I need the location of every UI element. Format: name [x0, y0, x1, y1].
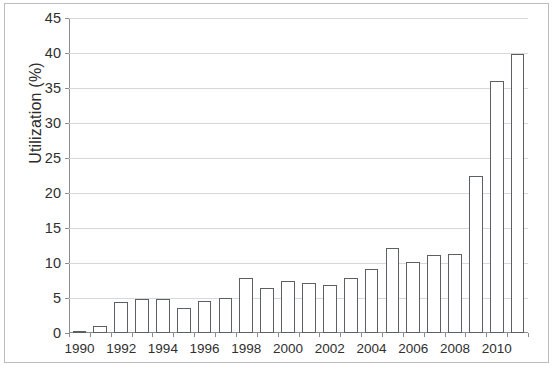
x-tick-label: 2008	[440, 341, 470, 356]
y-tick-label: 35	[45, 80, 61, 96]
gridline	[69, 18, 528, 19]
gridline	[69, 228, 528, 229]
x-tick-mark	[152, 333, 153, 337]
y-tick-mark	[65, 193, 69, 194]
x-tick-mark	[215, 333, 216, 337]
x-tick-mark	[340, 333, 341, 337]
bar-1998	[239, 278, 253, 333]
bar-2003	[344, 278, 358, 333]
y-tick-mark	[65, 53, 69, 54]
x-tick-label: 2002	[315, 341, 345, 356]
x-tick-mark	[194, 333, 195, 337]
bar-2000	[281, 281, 295, 334]
x-tick-label: 1992	[106, 341, 136, 356]
x-tick-label: 1996	[190, 341, 220, 356]
bar-1997	[219, 298, 233, 333]
bar-2001	[302, 283, 316, 333]
y-tick-mark	[65, 298, 69, 299]
x-tick-label: 2006	[398, 341, 428, 356]
gridline	[69, 53, 528, 54]
y-axis-title: Utilization (%)	[27, 33, 45, 193]
y-tick-mark	[65, 158, 69, 159]
x-tick-mark	[382, 333, 383, 337]
bar-2010	[490, 81, 504, 333]
y-tick-mark	[65, 123, 69, 124]
x-tick-mark	[465, 333, 466, 337]
y-tick-label: 45	[45, 10, 61, 26]
bar-2008	[448, 254, 462, 333]
y-tick-label: 40	[45, 45, 61, 61]
x-tick-label: 1990	[64, 341, 94, 356]
y-tick-label: 25	[45, 150, 61, 166]
bar-2011	[511, 54, 525, 333]
bar-2006	[406, 262, 420, 333]
x-tick-label: 2000	[273, 341, 303, 356]
y-tick-label: 15	[45, 220, 61, 236]
x-tick-mark	[236, 333, 237, 337]
y-tick-label: 10	[45, 255, 61, 271]
x-tick-label: 1998	[231, 341, 261, 356]
x-tick-mark	[69, 333, 70, 337]
bar-2007	[427, 255, 441, 333]
x-tick-mark	[424, 333, 425, 337]
x-tick-label: 2010	[482, 341, 512, 356]
x-tick-mark	[319, 333, 320, 337]
x-tick-mark	[361, 333, 362, 337]
bar-1990	[73, 331, 87, 333]
gridline	[69, 158, 528, 159]
bar-2005	[386, 248, 400, 333]
x-tick-mark	[90, 333, 91, 337]
x-tick-mark	[278, 333, 279, 337]
bar-1993	[135, 299, 149, 333]
plot-area: 051015202530354045 199019921994199619982…	[69, 18, 528, 333]
y-tick-label: 30	[45, 115, 61, 131]
x-tick-label: 1994	[148, 341, 178, 356]
x-tick-mark	[257, 333, 258, 337]
x-tick-mark	[486, 333, 487, 337]
x-tick-mark	[528, 333, 529, 337]
x-tick-mark	[132, 333, 133, 337]
y-tick-label: 20	[45, 185, 61, 201]
bar-1994	[156, 299, 170, 333]
x-tick-mark	[403, 333, 404, 337]
y-tick-mark	[65, 263, 69, 264]
bar-1995	[177, 308, 191, 333]
bar-2009	[469, 176, 483, 333]
bar-1991	[93, 326, 107, 333]
gridline	[69, 193, 528, 194]
x-tick-mark	[111, 333, 112, 337]
y-tick-mark	[65, 228, 69, 229]
x-tick-mark	[173, 333, 174, 337]
y-tick-mark	[65, 88, 69, 89]
y-tick-label: 0	[53, 325, 61, 341]
x-tick-label: 2004	[356, 341, 386, 356]
x-tick-mark	[445, 333, 446, 337]
bar-1999	[260, 288, 274, 333]
x-tick-mark	[507, 333, 508, 337]
gridline	[69, 88, 528, 89]
y-tick-mark	[65, 18, 69, 19]
bar-2002	[323, 285, 337, 333]
bar-1992	[114, 302, 128, 333]
bar-1996	[198, 301, 212, 333]
chart-figure: Utilization (%) 051015202530354045 19901…	[0, 0, 553, 367]
x-tick-mark	[299, 333, 300, 337]
bar-2004	[365, 269, 379, 333]
gridline	[69, 123, 528, 124]
y-tick-label: 5	[53, 290, 61, 306]
